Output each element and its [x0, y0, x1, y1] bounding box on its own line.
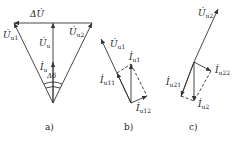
label-i-u12: İu12 — [136, 104, 151, 114]
i-u11-vector — [117, 73, 131, 103]
caption-a: a) — [45, 123, 54, 132]
label-i-u1: İu1 — [129, 53, 140, 63]
label-u-u: U̇u — [39, 39, 50, 49]
label-i-u21: İu21 — [166, 78, 181, 88]
dash-1 — [181, 96, 194, 101]
dash-2 — [131, 64, 147, 96]
label-delta-u: ΔU̇ — [30, 10, 44, 19]
caption-c: c) — [189, 123, 198, 132]
i-u22-vector — [194, 62, 211, 71]
label-i-u2: İu2 — [198, 100, 209, 110]
dash-1 — [117, 64, 131, 73]
i-u21-vector — [181, 62, 194, 96]
label-u-u1: U̇u1 — [3, 31, 18, 41]
i-u12-vector — [131, 96, 147, 103]
label-delta-delta: Δδ — [47, 73, 56, 80]
label-u-u1: U̇u1 — [110, 40, 125, 50]
panel-c — [181, 9, 218, 101]
dash-2 — [194, 71, 211, 101]
label-u-u2: U̇u2 — [69, 28, 84, 38]
label-u-u2: U̇u2 — [198, 9, 213, 19]
label-i-u22: İu22 — [215, 66, 230, 76]
caption-b: b) — [124, 123, 133, 132]
phasor-diagram — [0, 0, 235, 142]
label-i-u11: İu11 — [100, 76, 115, 86]
